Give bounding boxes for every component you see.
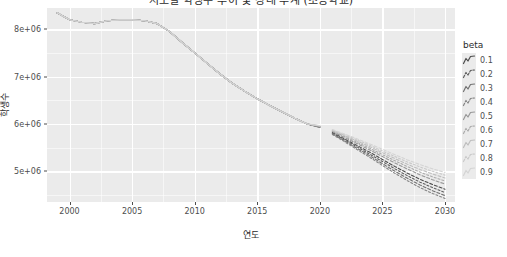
legend-key-icon <box>462 123 476 137</box>
plot-panel <box>47 8 455 202</box>
legend-item-0-7[interactable]: 0.7 <box>462 137 507 151</box>
legend-item-label: 0.7 <box>480 140 493 149</box>
legend-item-0-8[interactable]: 0.8 <box>462 151 507 165</box>
legend-key-icon <box>462 95 476 109</box>
legend-key-icon <box>462 53 476 67</box>
x-tick-label: 2010 <box>184 207 204 216</box>
legend-key-icon <box>462 81 476 95</box>
series-line-historical <box>57 13 320 127</box>
x-tick-mark <box>132 202 133 205</box>
y-tick-mark <box>44 171 47 172</box>
legend-key-icon <box>462 67 476 81</box>
legend-item-0-2[interactable]: 0.2 <box>462 67 507 81</box>
series-line-forecast <box>332 133 445 192</box>
legend-key-icon <box>462 109 476 123</box>
series-line-historical <box>57 13 320 128</box>
x-tick-label: 2000 <box>59 207 79 216</box>
legend-title: beta <box>462 40 507 50</box>
legend-item-0-9[interactable]: 0.9 <box>462 165 507 179</box>
chart-title: 시도별 학생수 추이 및 장래 추계 (초등학교) <box>47 0 455 7</box>
legend-item-0-6[interactable]: 0.6 <box>462 123 507 137</box>
legend-items: 0.10.20.30.40.50.60.70.80.9 <box>462 53 507 179</box>
legend-item-label: 0.4 <box>480 98 493 107</box>
x-tick-mark <box>70 202 71 205</box>
legend-item-label: 0.6 <box>480 126 493 135</box>
x-tick-label: 2020 <box>310 207 330 216</box>
series-line-historical <box>57 13 320 126</box>
series-line-historical <box>57 13 320 126</box>
series-line-forecast <box>332 130 445 173</box>
series-line-historical <box>57 13 320 128</box>
y-tick-label: 7e+06 <box>5 72 41 81</box>
y-tick-mark <box>44 123 47 124</box>
x-tick-label: 2030 <box>435 207 455 216</box>
y-tick-label: 8e+06 <box>5 25 41 34</box>
legend-item-label: 0.1 <box>480 56 493 65</box>
legend-key-icon <box>462 151 476 165</box>
legend-item-label: 0.2 <box>480 70 493 79</box>
legend-item-0-4[interactable]: 0.4 <box>462 95 507 109</box>
x-tick-mark <box>257 202 258 205</box>
y-axis-title: 학생수 <box>0 93 11 117</box>
x-tick-mark <box>382 202 383 205</box>
legend: beta 0.10.20.30.40.50.60.70.80.9 <box>462 40 507 179</box>
x-tick-mark <box>445 202 446 205</box>
x-tick-mark <box>320 202 321 205</box>
legend-key-icon <box>462 137 476 151</box>
legend-item-0-1[interactable]: 0.1 <box>462 53 507 67</box>
y-tick-label: 5e+06 <box>5 167 41 176</box>
y-tick-mark <box>44 29 47 30</box>
legend-item-label: 0.5 <box>480 112 493 121</box>
legend-item-0-5[interactable]: 0.5 <box>462 109 507 123</box>
legend-key-icon <box>462 165 476 179</box>
y-tick-mark <box>44 76 47 77</box>
legend-item-label: 0.8 <box>480 154 493 163</box>
legend-item-label: 0.9 <box>480 168 493 177</box>
x-tick-label: 2025 <box>372 207 392 216</box>
x-axis-title: 연도 <box>47 228 455 241</box>
series-line-forecast <box>332 132 445 189</box>
series-line-historical <box>57 13 320 126</box>
series-line-historical <box>57 13 320 127</box>
series-line-historical <box>57 13 320 127</box>
x-tick-label: 2015 <box>247 207 267 216</box>
y-tick-label: 6e+06 <box>5 119 41 128</box>
x-tick-mark <box>195 202 196 205</box>
legend-item-0-3[interactable]: 0.3 <box>462 81 507 95</box>
series-line-historical <box>57 13 320 126</box>
series-lines <box>47 8 455 202</box>
x-tick-label: 2005 <box>122 207 142 216</box>
chart-figure: 시도별 학생수 추이 및 장래 추계 (초등학교) 학생수 연도 beta 0.… <box>0 0 507 257</box>
legend-item-label: 0.3 <box>480 84 493 93</box>
